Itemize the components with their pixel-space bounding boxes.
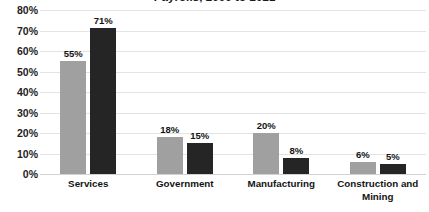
y-axis: 80%70%60%50%40%30%20%10%0% <box>0 10 38 174</box>
bar[interactable] <box>380 164 406 174</box>
bar[interactable] <box>283 158 309 174</box>
y-axis-tick-label: 30% <box>4 107 38 118</box>
chart-title: Payrolls, 2000 to 2021 <box>0 0 429 4</box>
bar-value-label: 6% <box>356 149 370 160</box>
x-axis: ServicesGovernmentManufacturingConstruct… <box>40 178 426 212</box>
y-axis-tick-label: 60% <box>4 46 38 57</box>
y-axis-tick-label: 20% <box>4 128 38 139</box>
bar-group: 55%71% <box>40 10 137 174</box>
bar[interactable] <box>187 143 213 174</box>
x-axis-category-label: Government <box>137 178 234 191</box>
x-axis-category-label: Manufacturing <box>233 178 330 191</box>
bar[interactable] <box>157 137 183 174</box>
plot-area: 55%71%18%15%20%8%6%5% <box>40 10 426 174</box>
x-axis-category-label: Services <box>40 178 137 191</box>
y-axis-tick-label: 10% <box>4 148 38 159</box>
bar[interactable] <box>350 162 376 174</box>
bar-value-label: 20% <box>257 120 276 131</box>
y-axis-tick-label: 80% <box>4 5 38 16</box>
y-axis-tick-label: 50% <box>4 66 38 77</box>
bar-group: 20%8% <box>233 10 330 174</box>
y-axis-tick-label: 0% <box>4 169 38 180</box>
x-axis-category-label: Construction and Mining <box>330 178 427 203</box>
bar-value-label: 15% <box>190 130 209 141</box>
y-axis-tick-label: 70% <box>4 25 38 36</box>
y-axis-tick-label: 40% <box>4 87 38 98</box>
bar[interactable] <box>253 133 279 174</box>
bar-group: 6%5% <box>330 10 427 174</box>
bar-value-label: 5% <box>386 151 400 162</box>
bar-chart: Payrolls, 2000 to 2021 80%70%60%50%40%30… <box>0 0 429 212</box>
bar-value-label: 71% <box>94 15 113 26</box>
bar-value-label: 55% <box>64 48 83 59</box>
bar-group: 18%15% <box>137 10 234 174</box>
bar-value-label: 18% <box>160 124 179 135</box>
bar[interactable] <box>90 28 116 174</box>
bar[interactable] <box>60 61 86 174</box>
gridline <box>40 174 426 175</box>
bar-value-label: 8% <box>289 145 303 156</box>
